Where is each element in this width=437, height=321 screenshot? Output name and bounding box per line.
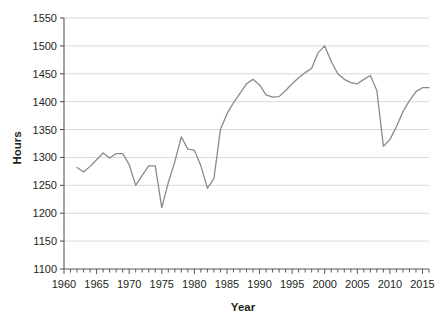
y-tick-label: 1300 [33,151,57,163]
y-tick-label: 1150 [33,235,57,247]
x-tick-label: 2010 [378,278,402,290]
x-tick-label: 1995 [280,278,304,290]
y-tick-label: 1100 [33,263,57,275]
y-tick-label: 1500 [33,40,57,52]
x-tick-label: 1985 [215,278,239,290]
x-tick-label: 1970 [117,278,141,290]
chart-container: 1100115012001250130013501400145015001550… [0,0,437,321]
y-axis-title: Hours [11,131,23,164]
x-tick-label: 1960 [52,278,76,290]
x-tick-label: 2000 [312,278,336,290]
x-tick-label: 2015 [410,278,434,290]
y-tick-label: 1250 [33,179,57,191]
x-tick-label: 1990 [247,278,271,290]
x-axis-title: Year [231,301,256,313]
chart-background [0,0,437,321]
y-tick-label: 1400 [33,96,57,108]
y-tick-label: 1550 [33,12,57,24]
line-chart: 1100115012001250130013501400145015001550… [0,0,437,321]
x-tick-label: 2005 [345,278,369,290]
y-tick-label: 1200 [33,207,57,219]
x-tick-label: 1980 [182,278,206,290]
x-tick-label: 1975 [150,278,174,290]
y-tick-label: 1350 [33,124,57,136]
x-tick-label: 1965 [84,278,108,290]
y-tick-label: 1450 [33,68,57,80]
